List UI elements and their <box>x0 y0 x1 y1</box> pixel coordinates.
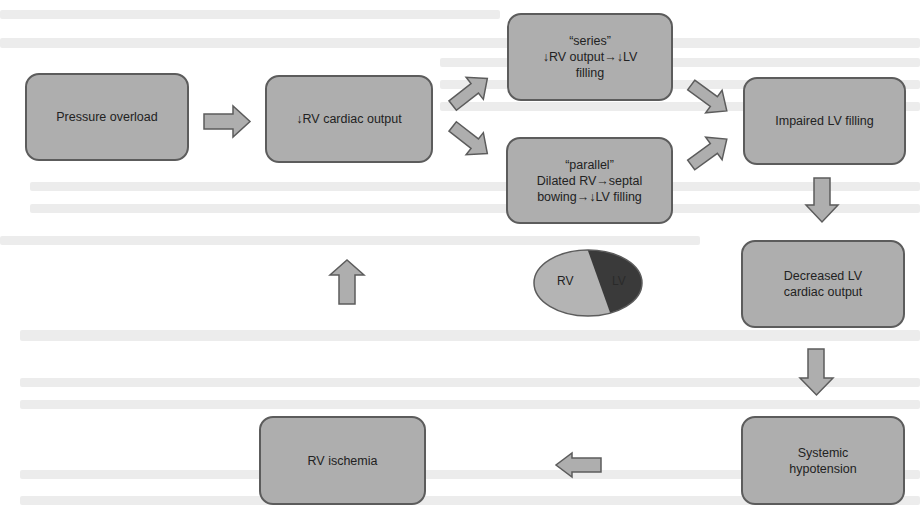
node-pressure-overload: Pressure overload <box>25 73 189 161</box>
arrow-left-icon <box>555 452 602 478</box>
rv-label: RV <box>557 274 573 288</box>
ghost-line <box>30 182 920 191</box>
arrow-down-icon <box>799 348 834 396</box>
node-decreased-lv-output: Decreased LV cardiac output <box>741 240 905 328</box>
ghost-line <box>0 10 500 19</box>
ghost-line <box>20 330 920 341</box>
node-label: “parallel” Dilated RV→septal bowing→↓LV … <box>537 157 642 205</box>
heart-cross-section: RV LV <box>532 248 644 318</box>
ghost-line <box>0 38 920 48</box>
ghost-line <box>30 204 920 213</box>
node-rv-cardiac-output: ↓RV cardiac output <box>265 75 433 163</box>
node-label: ↓RV cardiac output <box>296 111 401 127</box>
lv-label: LV <box>612 274 626 288</box>
node-label: RV ischemia <box>308 453 378 469</box>
arrow-down-right-icon <box>683 78 735 118</box>
arrow-up-right-icon <box>683 131 735 173</box>
node-parallel: “parallel” Dilated RV→septal bowing→↓LV … <box>506 137 673 224</box>
ghost-line <box>0 236 700 245</box>
node-series: “series” ↓RV output→↓LV filling <box>507 13 673 101</box>
arrow-down-right-icon <box>445 120 495 160</box>
node-impaired-lv-filling: Impaired LV filling <box>743 77 906 165</box>
arrow-up-right-icon <box>445 72 495 112</box>
arrow-up-icon <box>329 259 365 305</box>
node-label: Decreased LV cardiac output <box>784 268 863 300</box>
ghost-line <box>20 378 920 387</box>
node-label: Systemic hypotension <box>789 445 856 477</box>
arrow-right-icon <box>203 105 251 138</box>
node-systemic-hypotension: Systemic hypotension <box>741 416 905 505</box>
arrow-down-icon <box>805 177 839 223</box>
node-rv-ischemia: RV ischemia <box>259 416 426 505</box>
node-label: “series” ↓RV output→↓LV filling <box>543 33 638 81</box>
heart-ellipse-icon <box>532 248 644 318</box>
node-label: Pressure overload <box>56 109 157 125</box>
ghost-line <box>20 400 920 409</box>
node-label: Impaired LV filling <box>775 113 873 129</box>
